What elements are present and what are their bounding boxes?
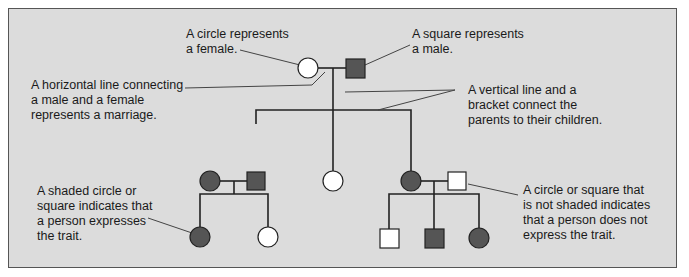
label-horizontal-line-marriage: A horizontal line connecting a male and … bbox=[31, 78, 183, 123]
callout-vertical-line-lower bbox=[378, 90, 455, 110]
male-shaded-gen3 bbox=[425, 229, 444, 248]
female-unshaded-gen3 bbox=[258, 227, 278, 247]
female-unshaded-gen1 bbox=[298, 58, 318, 78]
label-vertical-line-bracket: A vertical line and a bracket connect th… bbox=[468, 83, 602, 128]
callout-square bbox=[365, 45, 410, 65]
label-square-male: A square represents a male. bbox=[412, 27, 524, 57]
female-shaded-gen2-spouse bbox=[200, 171, 220, 191]
connector-lines bbox=[200, 68, 479, 229]
male-shaded-gen2 bbox=[247, 172, 265, 190]
male-unshaded-gen2-spouse bbox=[448, 172, 466, 190]
female-shaded-gen3 bbox=[190, 227, 210, 247]
label-circle-female: A circle represents a female. bbox=[186, 27, 289, 57]
label-not-shaded: A circle or square that is not shaded in… bbox=[523, 183, 650, 243]
female-unshaded-gen2 bbox=[323, 171, 343, 191]
sibling-bracket-gen3-left bbox=[200, 194, 268, 227]
callout-shaded bbox=[148, 218, 195, 234]
female-shaded-gen2 bbox=[401, 171, 421, 191]
label-shaded-expresses-trait: A shaded circle or square indicates that… bbox=[37, 184, 152, 244]
male-unshaded-gen3 bbox=[380, 229, 399, 248]
male-shaded-gen1 bbox=[346, 59, 365, 78]
callout-vertical-line-upper bbox=[345, 90, 455, 92]
female-shaded-gen3-right bbox=[469, 228, 489, 248]
